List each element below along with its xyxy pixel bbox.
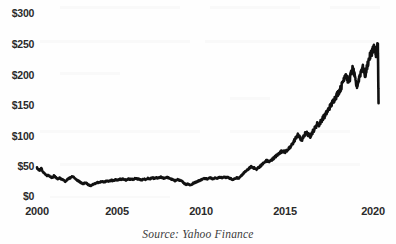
price-line	[37, 43, 379, 186]
line-chart-plot	[0, 0, 396, 244]
source-caption: Source: Yahoo Finance	[0, 228, 396, 240]
chart-figure: $300 $250 $200 $150 $100 $50 $0 2000 200…	[0, 0, 396, 244]
